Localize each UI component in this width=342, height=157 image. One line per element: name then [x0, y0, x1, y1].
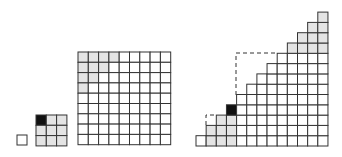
grid-cell: [150, 134, 160, 144]
grid-cell: [109, 134, 119, 144]
grid-cell: [277, 125, 287, 135]
grid-3x3-with-black-cell: [36, 115, 67, 146]
grid-cell: [88, 114, 98, 124]
grid-cell: [99, 124, 109, 134]
grid-cell: [78, 134, 88, 144]
grid-cell: [150, 93, 160, 103]
grid-cell: [277, 115, 287, 125]
grid-cell: [247, 84, 257, 94]
grid-cell: [109, 124, 119, 134]
grid-cell: [109, 93, 119, 103]
grid-cell: [140, 83, 150, 93]
shaded-cell: [36, 136, 46, 146]
grid-cell: [160, 124, 170, 134]
grid-cell: [160, 62, 170, 72]
grid-cell: [109, 114, 119, 124]
grid-cell: [277, 136, 287, 146]
grid-cell: [318, 105, 328, 115]
grid-cell: [287, 95, 297, 105]
grid-cell: [298, 74, 308, 84]
shaded-cell: [36, 125, 46, 135]
grid-cell: [267, 136, 277, 146]
grid-cell: [109, 104, 119, 114]
grid-cell: [88, 124, 98, 134]
grid-cell: [150, 52, 160, 62]
shaded-cell: [287, 43, 297, 53]
grid-cell: [160, 104, 170, 114]
grid-cell: [140, 124, 150, 134]
grid-cell: [287, 74, 297, 84]
grid-cell: [257, 105, 267, 115]
shaded-cell: [298, 43, 308, 53]
grid-cell: [140, 73, 150, 83]
shaded-cell: [57, 136, 67, 146]
grid-cell: [267, 95, 277, 105]
grid-cell: [109, 83, 119, 93]
grid-cell: [298, 95, 308, 105]
grid-cell: [277, 74, 287, 84]
grid-cell: [119, 83, 129, 93]
grid-cell: [130, 124, 140, 134]
grid-cell: [119, 124, 129, 134]
grid-cell: [298, 84, 308, 94]
grid-cell: [298, 115, 308, 125]
grid-cell: [160, 83, 170, 93]
shaded-cell: [78, 83, 88, 93]
grid-cell: [78, 114, 88, 124]
grid-diagram: [0, 0, 342, 157]
shaded-cell: [88, 52, 98, 62]
grid-cell: [318, 136, 328, 146]
shaded-cell: [318, 12, 328, 22]
grid-cell: [140, 52, 150, 62]
grid-cell: [130, 104, 140, 114]
grid-cell: [277, 95, 287, 105]
grid-cell: [237, 105, 247, 115]
shaded-cell: [216, 136, 226, 146]
grid-cell: [247, 125, 257, 135]
shaded-cell: [308, 33, 318, 43]
grid-cell: [196, 136, 206, 146]
grid-cell: [140, 62, 150, 72]
grid-cell: [298, 125, 308, 135]
grid-cell: [109, 62, 119, 72]
grid-cell: [247, 105, 257, 115]
grid-cell: [150, 124, 160, 134]
shaded-cell: [206, 125, 216, 135]
grid-cell: [160, 114, 170, 124]
shaded-cell: [318, 33, 328, 43]
shaded-cell: [216, 115, 226, 125]
shaded-cell: [206, 136, 216, 146]
grid-cell: [308, 125, 318, 135]
shaded-cell: [226, 125, 236, 135]
grid-cell: [99, 83, 109, 93]
grid-cell: [277, 84, 287, 94]
shaded-cell: [109, 52, 119, 62]
grid-cell: [150, 114, 160, 124]
grid-cell: [119, 62, 129, 72]
shaded-cell: [298, 33, 308, 43]
shaded-cell: [78, 62, 88, 72]
grid-cell: [109, 73, 119, 83]
shaded-cell: [99, 62, 109, 72]
grid-cell: [150, 104, 160, 114]
grid-cell: [140, 104, 150, 114]
grid-cell: [140, 134, 150, 144]
grid-cell: [287, 53, 297, 63]
grid-cell: [237, 95, 247, 105]
grid-cell: [287, 136, 297, 146]
grid-cell: [140, 114, 150, 124]
grid-cell: [267, 115, 277, 125]
grid-cell: [298, 64, 308, 74]
shaded-cell: [78, 73, 88, 83]
grid-cell: [267, 64, 277, 74]
grid-cell: [308, 105, 318, 115]
shaded-cell: [308, 43, 318, 53]
grid-cell: [267, 105, 277, 115]
grid-cell: [119, 114, 129, 124]
shaded-cell: [318, 43, 328, 53]
grid-cell: [88, 104, 98, 114]
grid-cell: [119, 93, 129, 103]
grid-cell: [88, 134, 98, 144]
shaded-cell: [318, 22, 328, 32]
shaded-cell: [99, 52, 109, 62]
